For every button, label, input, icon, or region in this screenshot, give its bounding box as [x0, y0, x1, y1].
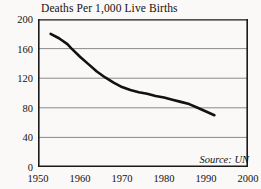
x-axis-tick-label: 1950	[28, 173, 49, 184]
x-axis-tick-label: 1970	[112, 173, 133, 184]
source-annotation: Source: UN	[200, 154, 249, 165]
y-axis-tick-label: 160	[17, 43, 33, 54]
x-axis-tick-label: 2000	[238, 173, 259, 184]
x-axis-tick-label: 1990	[196, 173, 217, 184]
plot-area	[38, 19, 248, 167]
y-axis-tick-label: 120	[17, 73, 33, 84]
y-axis-tick-label: 200	[17, 14, 33, 25]
y-axis-tick-label: 0	[28, 162, 33, 173]
x-axis-tick-label: 1980	[154, 173, 175, 184]
y-axis-tick-label: 40	[23, 132, 34, 143]
x-axis-tick-label: 1960	[70, 173, 91, 184]
data-series-line	[51, 34, 215, 115]
chart-title: Deaths Per 1,000 Live Births	[41, 2, 178, 14]
infant-mortality-chart: Deaths Per 1,000 Live Births 04080120160…	[0, 0, 261, 189]
y-axis-tick-label: 80	[23, 102, 34, 113]
chart-svg	[38, 19, 248, 167]
